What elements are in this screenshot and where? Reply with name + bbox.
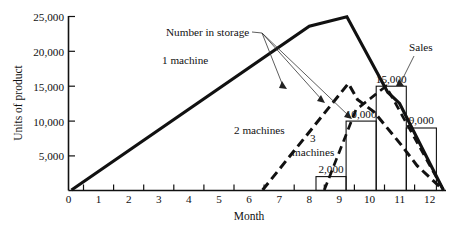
y-tick-label-10000: 10,000: [33, 116, 64, 128]
x-tick-label-2: 2: [126, 193, 132, 205]
callout-label-storage: Number in storage: [166, 26, 249, 38]
leader-line-storage-stub: [252, 32, 262, 33]
leader-line-sales: [400, 56, 414, 84]
bar-10000: [346, 121, 376, 190]
chart-container: 25,000 20,000 15,000 10,000 5,000 0 1 2: [0, 0, 452, 236]
x-tick-label-6: 6: [246, 193, 252, 205]
y-axis-ticks: [69, 17, 76, 156]
series-label-3-machines-line1: 3: [310, 132, 316, 144]
x-tick-label-7: 7: [276, 193, 282, 205]
x-tick-label-1: 1: [96, 193, 102, 205]
x-tick-label-4: 4: [186, 193, 192, 205]
x-tick-label-8: 8: [307, 193, 313, 205]
bar-2000: [316, 177, 346, 191]
x-tick-label-10: 10: [364, 193, 376, 205]
series-label-2-machines: 2 machines: [234, 124, 285, 136]
leader-line-storage-3: [262, 33, 349, 116]
y-axis-tick-labels: 25,000 20,000 15,000 10,000 5,000: [33, 11, 64, 162]
series-label-1-machine: 1 machine: [162, 54, 208, 66]
y-tick-label-5000: 5,000: [39, 150, 65, 162]
x-tick-label-0: 0: [66, 193, 72, 205]
leader-line-storage-1: [262, 33, 283, 86]
curve-1-machine: [72, 17, 444, 191]
bar-label-2000: 2,000: [318, 163, 344, 175]
leader-line-storage-2: [262, 33, 322, 100]
production-storage-sales-chart: 25,000 20,000 15,000 10,000 5,000 0 1 2: [0, 0, 452, 236]
x-tick-label-3: 3: [156, 193, 162, 205]
x-tick-label-5: 5: [216, 193, 222, 205]
y-axis-title: Units of product: [12, 65, 25, 141]
y-tick-label-20000: 20,000: [33, 46, 64, 58]
series-label-3-machines-line2: machines: [292, 146, 334, 158]
axes-group: [69, 16, 447, 191]
y-tick-label-25000: 25,000: [33, 11, 64, 23]
leader-arrow-storage-1: [279, 81, 287, 89]
y-tick-label-15000: 15,000: [33, 81, 64, 93]
bar-label-9000: 9,000: [409, 114, 435, 126]
x-tick-label-9: 9: [337, 193, 343, 205]
bar-15000: [376, 86, 406, 190]
x-tick-label-11: 11: [394, 193, 405, 205]
x-axis-tick-labels: 0 1 2 3 4 5 6 7 8 9 10 11 12: [66, 193, 436, 205]
x-axis-ticks: [84, 185, 415, 191]
x-axis-title: Month: [234, 210, 265, 222]
curves-group: [72, 17, 444, 191]
x-tick-label-12: 12: [424, 193, 435, 205]
callout-label-sales: Sales: [409, 41, 433, 53]
